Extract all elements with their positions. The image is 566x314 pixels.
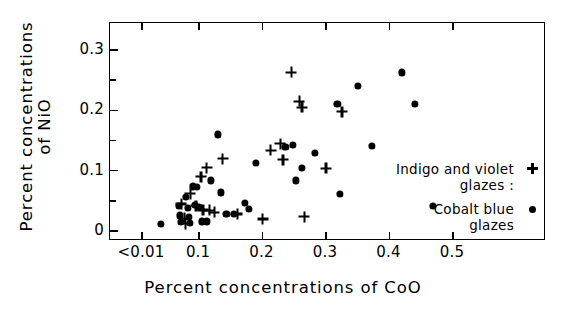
data-point-cobalt-blue — [207, 177, 214, 184]
x-axis-title: Percent concentrations of CoO — [0, 278, 566, 297]
y-axis-title-line2: of NiO — [36, 6, 54, 246]
x-tick-top — [262, 23, 263, 30]
x-tick — [262, 232, 263, 239]
y-tick-label: 0.1 — [58, 161, 104, 179]
y-tick-label: 0.2 — [58, 100, 104, 118]
legend-label-cobalt-line1: Cobalt blue — [434, 201, 514, 217]
x-tick — [325, 232, 326, 239]
y-axis-title: Percent concentrations of NiO — [18, 6, 55, 246]
data-point-cobalt-blue — [193, 183, 200, 190]
x-tick — [389, 232, 390, 239]
y-tick-label: 0 — [58, 221, 104, 239]
data-point-cobalt-blue — [399, 69, 406, 76]
y-minor-tick — [110, 140, 116, 141]
data-point-cobalt-blue — [311, 149, 318, 156]
data-point-cobalt-blue — [245, 206, 252, 213]
legend-entry-cobalt-blue: Cobalt blue glazes — [391, 201, 539, 234]
data-point-indigo-violet — [257, 213, 268, 224]
x-tick-label: 0.1 — [186, 243, 210, 261]
y-minor-tick — [110, 200, 116, 201]
x-tick-top — [198, 23, 199, 30]
plot-area: Indigo and violet glazes : Cobalt blue g… — [109, 22, 545, 240]
legend-entry-indigo-violet: Indigo and violet glazes : — [391, 161, 539, 194]
legend-dot-marker-icon — [526, 201, 539, 216]
x-tick-label: 0.2 — [249, 243, 273, 261]
data-point-cobalt-blue — [354, 83, 361, 90]
data-point-indigo-violet — [209, 207, 220, 218]
data-point-indigo-violet — [296, 102, 307, 113]
legend-plus-marker-icon — [526, 161, 539, 176]
y-tick — [110, 110, 118, 111]
data-point-cobalt-blue — [289, 141, 296, 148]
y-tick — [110, 49, 118, 50]
data-point-indigo-violet — [201, 162, 212, 173]
x-tick — [141, 232, 142, 239]
data-point-indigo-violet — [299, 211, 310, 222]
data-point-cobalt-blue — [223, 211, 230, 218]
y-tick — [110, 230, 118, 231]
legend-spacer — [391, 194, 539, 201]
data-point-cobalt-blue — [203, 218, 210, 225]
legend-label-indigo-line2: glazes : — [396, 177, 514, 193]
data-point-cobalt-blue — [157, 220, 164, 227]
data-point-cobalt-blue — [298, 165, 305, 172]
data-point-cobalt-blue — [182, 194, 189, 201]
data-point-indigo-violet — [286, 67, 297, 78]
x-tick-top — [452, 23, 453, 30]
data-point-cobalt-blue — [253, 159, 260, 166]
data-point-indigo-violet — [277, 154, 288, 165]
x-tick-top — [141, 23, 142, 30]
x-tick-label: 0.4 — [376, 243, 400, 261]
data-point-indigo-violet — [336, 106, 347, 117]
legend-label-cobalt-line2: glazes — [434, 217, 514, 233]
y-minor-tick — [110, 79, 116, 80]
legend-label-indigo-line1: Indigo and violet — [396, 161, 514, 177]
data-point-cobalt-blue — [187, 219, 194, 226]
x-tick — [198, 232, 199, 239]
data-point-indigo-violet — [321, 163, 332, 174]
data-point-cobalt-blue — [282, 143, 289, 150]
legend: Indigo and violet glazes : Cobalt blue g… — [391, 161, 539, 234]
x-tick-top — [389, 23, 390, 30]
x-tick-label: 0.5 — [440, 243, 464, 261]
data-point-cobalt-blue — [411, 101, 418, 108]
data-point-indigo-violet — [217, 153, 228, 164]
x-tick-top — [325, 23, 326, 30]
data-point-cobalt-blue — [217, 189, 224, 196]
x-tick-label: <0.01 — [118, 243, 165, 261]
data-point-cobalt-blue — [336, 190, 343, 197]
y-tick — [110, 170, 118, 171]
scatter-plot-figure: Percent concentrations of NiO Indigo and… — [0, 0, 566, 314]
y-tick-label: 0.3 — [58, 40, 104, 58]
y-axis-title-line1: Percent concentrations — [17, 21, 36, 231]
data-point-cobalt-blue — [214, 131, 221, 138]
data-point-cobalt-blue — [368, 142, 375, 149]
data-point-cobalt-blue — [292, 177, 299, 184]
x-tick-label: 0.3 — [313, 243, 337, 261]
